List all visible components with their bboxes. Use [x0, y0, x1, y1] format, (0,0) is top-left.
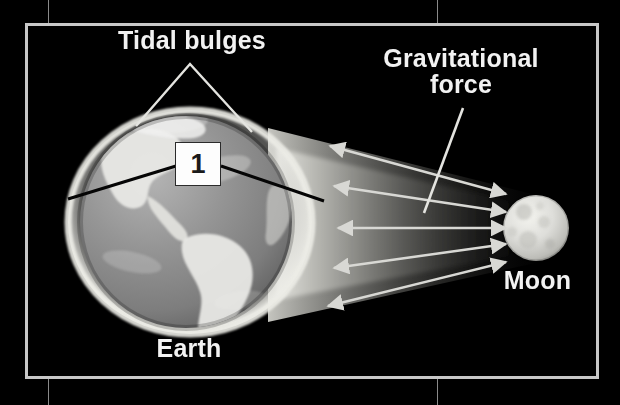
moon-crater	[545, 239, 555, 249]
moon-crater	[507, 227, 517, 237]
label-moon: Moon	[480, 268, 595, 294]
callout-number-box: 1	[175, 142, 221, 186]
moon-crater	[536, 202, 544, 210]
moon-crater	[519, 231, 537, 249]
moon-crater	[538, 216, 550, 228]
moon-crater	[516, 204, 532, 220]
label-gravitational-force: Gravitational force	[366, 46, 556, 97]
moon-globe	[503, 195, 569, 261]
label-tidal-bulges: Tidal bulges	[92, 28, 292, 54]
label-earth: Earth	[124, 336, 254, 362]
diagram-canvas: Tidal bulges Gravitational force Earth M…	[0, 0, 620, 405]
